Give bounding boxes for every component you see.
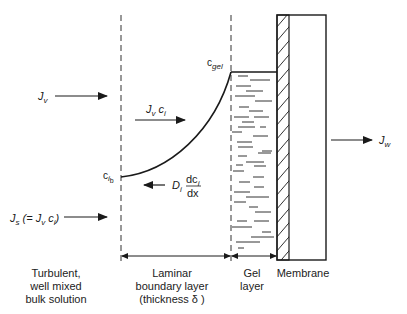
gel-layer-texture: [232, 76, 274, 248]
boundary-layer-caption: Laminar boundary layer (thickness δ ): [136, 267, 209, 305]
jw-label: Jw: [378, 134, 392, 149]
jv-ci-label: Jv ci: [145, 103, 166, 118]
svg-text:(thickness δ ): (thickness δ ): [139, 293, 204, 305]
c-b-label: cib: [103, 170, 114, 184]
gel-polarization-diagram: Jv Jv ci Js (= Jv ci) Jw Di dci dx cgel …: [0, 0, 407, 314]
svg-text:Membrane: Membrane: [277, 267, 330, 279]
diffusion-flux-label: Di dci dx: [172, 173, 201, 199]
js-label: Js (= Jv ci): [9, 212, 60, 227]
jv-label: Jv: [37, 90, 49, 105]
svg-text:layer: layer: [240, 280, 264, 292]
svg-text:Turbulent,: Turbulent,: [31, 267, 80, 279]
membrane-hatched-strip: [277, 15, 289, 260]
bulk-region-caption: Turbulent, well mixed bulk solution: [25, 267, 86, 305]
svg-text:Di: Di: [172, 179, 182, 194]
membrane-caption: Membrane: [277, 267, 330, 279]
concentration-profile-curve: [121, 72, 231, 177]
gel-layer-caption: Gel layer: [240, 267, 264, 292]
svg-text:boundary layer: boundary layer: [136, 280, 209, 292]
svg-text:Laminar: Laminar: [152, 267, 192, 279]
c-gel-label: cgel: [207, 57, 223, 71]
svg-text:Gel: Gel: [243, 267, 260, 279]
svg-text:bulk solution: bulk solution: [25, 293, 86, 305]
svg-text:well mixed: well mixed: [29, 280, 81, 292]
svg-text:dx: dx: [187, 187, 199, 199]
